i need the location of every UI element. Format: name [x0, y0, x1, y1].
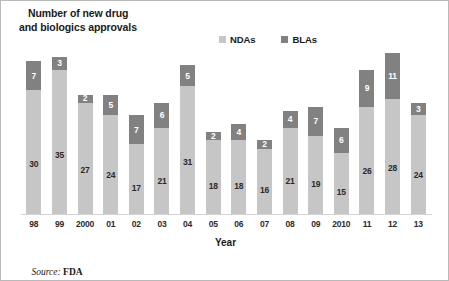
bar-value-label-bla: 5 — [185, 72, 190, 81]
bar-segment-bla[interactable]: 2 — [78, 95, 93, 103]
bar-segment-bla[interactable]: 5 — [180, 65, 195, 86]
bar-column[interactable]: 524 — [103, 95, 118, 215]
bar-segment-bla[interactable]: 6 — [334, 128, 349, 153]
bar-segment-bla[interactable]: 3 — [52, 57, 67, 69]
bar-value-label-nda: 31 — [183, 158, 192, 167]
bar-segment-nda[interactable]: 28 — [385, 99, 400, 215]
bar-column[interactable]: 421 — [283, 111, 298, 215]
chart-title: Number of new drug and biologics approva… — [19, 7, 249, 34]
source-value: FDA — [63, 267, 83, 277]
bar-value-label-bla: 6 — [339, 136, 344, 145]
bar-value-label-nda: 18 — [234, 182, 243, 191]
bar-value-label-nda: 27 — [81, 166, 90, 175]
bar-segment-bla[interactable]: 9 — [359, 70, 374, 107]
bar-value-label-nda: 15 — [337, 188, 346, 197]
bar-segment-bla[interactable]: 7 — [129, 115, 144, 144]
bar-value-label-bla: 5 — [108, 101, 113, 110]
bar-segment-bla[interactable]: 2 — [206, 132, 221, 140]
bar-column[interactable]: 926 — [359, 70, 374, 215]
plot-area: 7303352275247176215312184182164217196159… — [21, 53, 431, 215]
x-tick-label: 04 — [175, 219, 201, 229]
bar-column[interactable]: 730 — [26, 61, 41, 215]
bar-column[interactable]: 615 — [334, 128, 349, 215]
bar-value-label-bla: 7 — [134, 126, 139, 135]
x-axis-tick-labels: 989920000102030405060708092010111213 — [21, 217, 432, 233]
x-tick-label: 07 — [252, 219, 278, 229]
bar-segment-nda[interactable]: 19 — [308, 136, 323, 215]
x-tick-label: 09 — [303, 219, 329, 229]
bar-value-label-bla: 3 — [57, 59, 62, 68]
bar-value-label-bla: 7 — [313, 117, 318, 126]
bar-value-label-bla: 2 — [262, 140, 267, 149]
chart-title-line-1: Number of new drug — [19, 7, 249, 21]
bar-column[interactable]: 418 — [231, 124, 246, 215]
bar-segment-bla[interactable]: 5 — [103, 95, 118, 116]
bar-value-label-nda: 21 — [157, 177, 166, 186]
x-tick-label: 11 — [354, 219, 380, 229]
x-tick-label: 05 — [200, 219, 226, 229]
legend-entry: BLAs — [281, 34, 316, 45]
chart-figure: Number of new drug and biologics approva… — [0, 0, 449, 281]
bar-segment-bla[interactable]: 3 — [411, 103, 426, 115]
bar-column[interactable]: 227 — [78, 95, 93, 215]
bar-value-label-nda: 24 — [414, 171, 423, 180]
bar-segment-nda[interactable]: 17 — [129, 144, 144, 215]
bar-segment-nda[interactable]: 18 — [206, 140, 221, 215]
bar-value-label-bla: 2 — [211, 132, 216, 141]
bar-segment-nda[interactable]: 26 — [359, 107, 374, 215]
bar-segment-bla[interactable]: 11 — [385, 53, 400, 99]
bar-segment-nda[interactable]: 30 — [26, 90, 41, 215]
bar-segment-nda[interactable]: 21 — [283, 128, 298, 215]
bar-segment-nda[interactable]: 31 — [180, 86, 195, 215]
bar-column[interactable]: 621 — [154, 103, 169, 215]
bar-segment-bla[interactable]: 7 — [26, 61, 41, 90]
x-axis-baseline — [21, 214, 432, 215]
bar-value-label-bla: 6 — [160, 111, 165, 120]
bar-value-label-nda: 24 — [106, 171, 115, 180]
source-prefix: Source: — [32, 267, 64, 277]
bar-value-label-bla: 3 — [416, 105, 421, 114]
bar-value-label-nda: 26 — [362, 167, 371, 176]
bar-value-label-nda: 28 — [388, 164, 397, 173]
chart-title-line-2: and biologics approvals — [19, 21, 249, 35]
x-tick-label: 2000 — [72, 219, 98, 229]
x-tick-label: 08 — [277, 219, 303, 229]
bar-column[interactable]: 335 — [52, 57, 67, 215]
bar-segment-bla[interactable]: 2 — [257, 140, 272, 148]
bar-value-label-nda: 16 — [260, 186, 269, 195]
bar-column[interactable]: 531 — [180, 65, 195, 215]
bar-value-label-nda: 17 — [132, 184, 141, 193]
chart-legend: NDAsBLAs — [219, 34, 317, 45]
bar-value-label-bla: 11 — [388, 72, 397, 81]
bar-segment-nda[interactable]: 15 — [334, 153, 349, 215]
x-tick-label: 06 — [226, 219, 252, 229]
x-tick-label: 98 — [21, 219, 47, 229]
bar-segment-nda[interactable]: 27 — [78, 103, 93, 215]
bar-segment-bla[interactable]: 6 — [154, 103, 169, 128]
x-tick-label: 01 — [98, 219, 124, 229]
bar-column[interactable]: 1128 — [385, 53, 400, 215]
bar-value-label-bla: 2 — [83, 94, 88, 103]
bar-segment-nda[interactable]: 16 — [257, 149, 272, 215]
bar-column[interactable]: 324 — [411, 103, 426, 215]
bar-value-label-nda: 18 — [209, 182, 218, 191]
bar-segment-nda[interactable]: 24 — [411, 115, 426, 215]
legend-label: BLAs — [292, 34, 316, 45]
bar-segment-bla[interactable]: 4 — [231, 124, 246, 141]
bar-value-label-nda: 19 — [311, 180, 320, 189]
bar-segment-nda[interactable]: 35 — [52, 70, 67, 215]
bar-column[interactable]: 717 — [129, 115, 144, 215]
blas-swatch — [281, 36, 288, 43]
bar-segment-nda[interactable]: 24 — [103, 115, 118, 215]
bar-column[interactable]: 218 — [206, 132, 221, 215]
bar-column[interactable]: 216 — [257, 140, 272, 215]
bar-segment-nda[interactable]: 18 — [231, 140, 246, 215]
bar-value-label-nda: 35 — [55, 151, 64, 160]
bar-value-label-nda: 30 — [29, 160, 38, 169]
x-tick-label: 13 — [405, 219, 431, 229]
bar-segment-bla[interactable]: 7 — [308, 107, 323, 136]
bar-segment-nda[interactable]: 21 — [154, 128, 169, 215]
source-note: Source: FDA — [22, 257, 83, 281]
bar-column[interactable]: 719 — [308, 107, 323, 215]
bar-segment-bla[interactable]: 4 — [283, 111, 298, 128]
